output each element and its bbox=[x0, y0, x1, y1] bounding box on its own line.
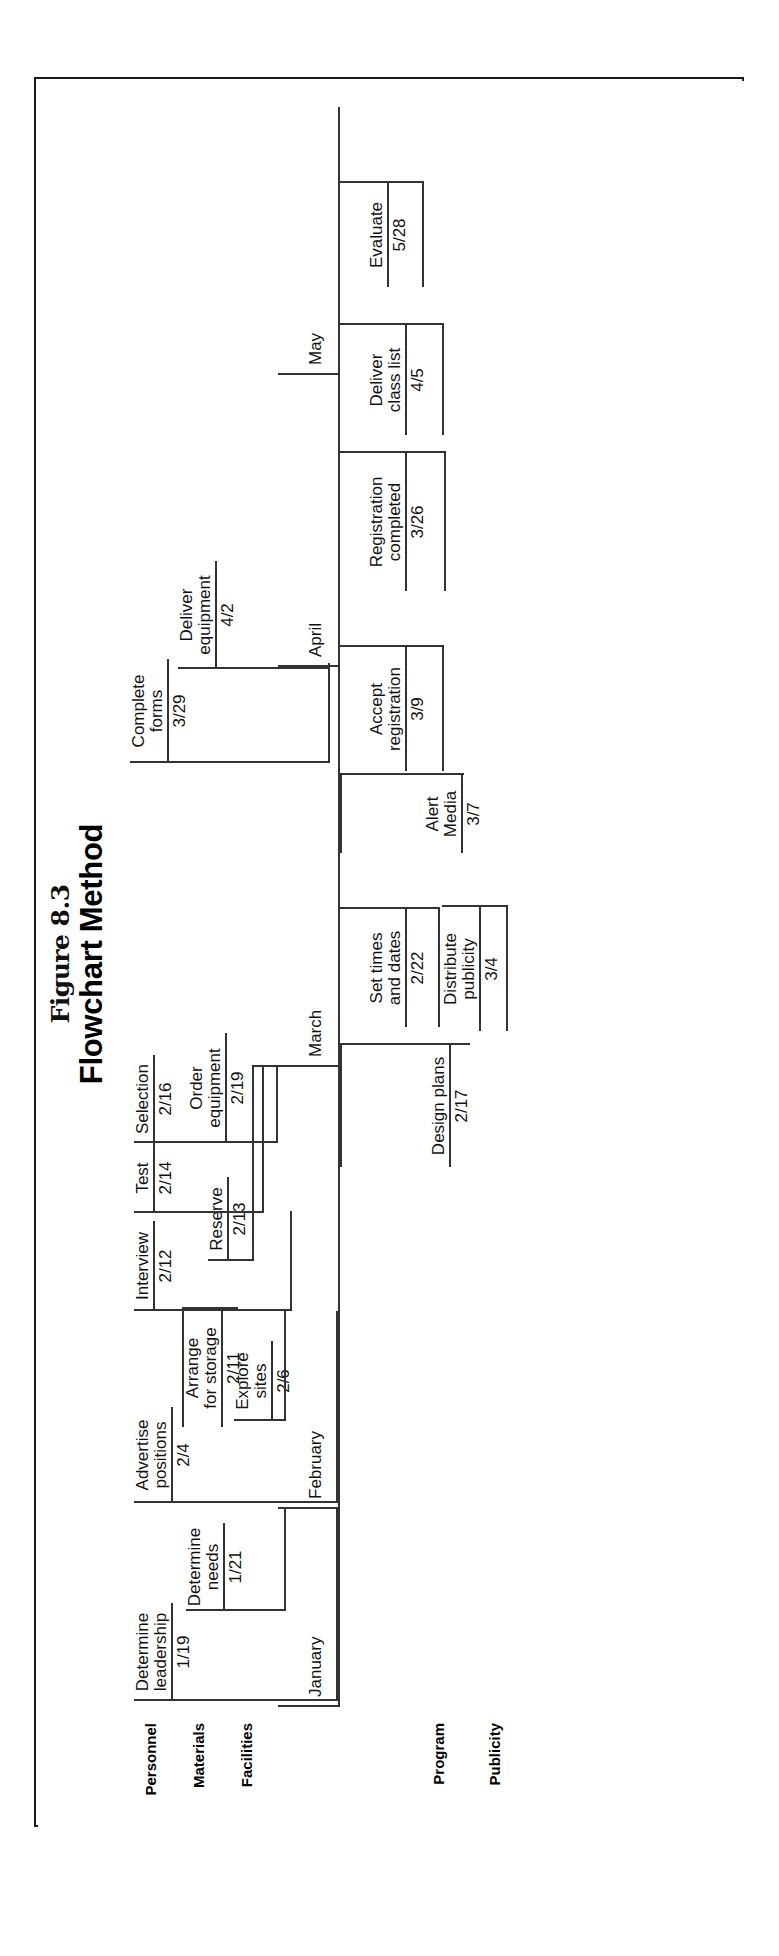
task-date: 2/16 bbox=[155, 1055, 175, 1143]
task-registration-completed: Registration completed 3/26 bbox=[368, 453, 427, 591]
month-tick-may bbox=[278, 373, 340, 375]
leg-test-base bbox=[262, 1065, 264, 1213]
task-label-line1: Set times bbox=[368, 909, 386, 1027]
leg-complete-forms-left bbox=[130, 761, 330, 763]
month-label-april: April bbox=[306, 623, 326, 657]
task-label-line1: Registration bbox=[368, 453, 386, 591]
leg-deliver-equipment-base bbox=[328, 665, 330, 669]
task-label-line1: Complete bbox=[130, 659, 148, 763]
task-evaluate: Evaluate 5/28 bbox=[368, 183, 409, 287]
month-tick-january bbox=[278, 1705, 340, 1707]
month-label-january: January bbox=[306, 1637, 326, 1697]
task-test: Test 2/14 bbox=[134, 1143, 175, 1213]
task-label-line2: class list bbox=[386, 325, 404, 435]
month-label-may: May bbox=[306, 333, 326, 365]
leg-reserve-base bbox=[252, 1065, 254, 1261]
task-date: 4/2 bbox=[217, 561, 237, 669]
leg-deliver-class-list-right bbox=[340, 323, 444, 325]
task-date: 1/21 bbox=[225, 1523, 245, 1611]
leg-interview-left bbox=[134, 1309, 292, 1311]
task-label-line1: Alert bbox=[424, 775, 442, 853]
leg-deliver-class-list-base bbox=[442, 323, 444, 435]
row-label-materials: Materials bbox=[190, 1723, 207, 1809]
leg-determine-needs-left bbox=[186, 1609, 286, 1611]
task-label-line2: completed bbox=[386, 453, 404, 591]
task-label-line1: Evaluate bbox=[368, 183, 386, 287]
figure-frame: Figure 8.3 Flowchart Method Personnel Ma… bbox=[34, 77, 744, 1827]
task-label-line1: Reserve bbox=[208, 1177, 226, 1261]
row-label-program: Program bbox=[430, 1723, 447, 1809]
task-reserve: Reserve 2/13 bbox=[208, 1177, 249, 1261]
row-label-publicity: Publicity bbox=[486, 1723, 503, 1809]
task-determine-leadership: Determine leadership 1/19 bbox=[134, 1603, 193, 1701]
task-label-line2: publicity bbox=[460, 907, 478, 1031]
leg-advertise-positions-base bbox=[336, 1311, 338, 1503]
task-label-line2: equipment bbox=[206, 1033, 224, 1143]
leg-distribute-publicity-right bbox=[442, 905, 508, 907]
month-label-march: March bbox=[306, 1010, 326, 1057]
leg-selection-left bbox=[134, 1141, 196, 1143]
leg-set-times-base bbox=[438, 907, 440, 1027]
task-label-line2: equipment bbox=[196, 561, 214, 669]
task-selection: Selection 2/16 bbox=[134, 1055, 175, 1143]
task-date: 2/12 bbox=[155, 1221, 175, 1311]
leg-set-times-right bbox=[340, 907, 440, 909]
task-label-line2: forms bbox=[148, 659, 166, 763]
task-label-line2: and dates bbox=[386, 909, 404, 1027]
leg-order-equipment-left bbox=[188, 1141, 278, 1143]
leg-accept-registration-base bbox=[442, 645, 444, 771]
task-determine-needs: Determine needs 1/21 bbox=[186, 1523, 245, 1611]
task-distribute-publicity: Distribute publicity 3/4 bbox=[442, 907, 501, 1031]
task-label-line2: leadership bbox=[152, 1603, 170, 1701]
task-label-line1: Deliver bbox=[178, 561, 196, 669]
leg-order-equipment-base bbox=[276, 1065, 278, 1143]
task-label-line2: Media bbox=[442, 775, 460, 853]
riser-february-to-march bbox=[252, 1065, 340, 1067]
task-arrange-for-storage: Arrange for storage 2/11 bbox=[184, 1309, 243, 1427]
task-label-line2: needs bbox=[204, 1523, 222, 1611]
leg-deliver-equipment-left bbox=[178, 667, 330, 669]
task-interview: Interview 2/12 bbox=[134, 1221, 175, 1311]
task-set-times-and-dates: Set times and dates 2/22 bbox=[368, 909, 427, 1027]
leg-alert-media-right bbox=[340, 773, 464, 775]
figure-number: Figure 8.3 bbox=[46, 81, 75, 1827]
leg-registration-completed-right bbox=[340, 451, 446, 453]
figure-rotation-wrapper: Figure 8.3 Flowchart Method Personnel Ma… bbox=[36, 79, 746, 1829]
task-date: 2/13 bbox=[229, 1177, 249, 1261]
leg-determine-needs-base bbox=[284, 1507, 286, 1611]
task-date: 1/19 bbox=[173, 1603, 193, 1701]
task-label-line1: Order bbox=[188, 1033, 206, 1143]
row-label-personnel: Personnel bbox=[142, 1723, 159, 1809]
month-tick-february bbox=[278, 1507, 340, 1509]
task-deliver-equipment: Deliver equipment 4/2 bbox=[178, 561, 237, 669]
task-date: 2/14 bbox=[155, 1143, 175, 1213]
task-label-line1: Test bbox=[134, 1143, 152, 1213]
leg-registration-completed-base bbox=[444, 451, 446, 591]
task-label-line1: Accept bbox=[368, 647, 386, 771]
task-date: 2/11 bbox=[223, 1309, 243, 1427]
task-label-line1: Advertise bbox=[134, 1407, 152, 1503]
task-label-line1: Interview bbox=[134, 1221, 152, 1311]
task-date: 2/6 bbox=[273, 1341, 293, 1421]
figure-title: Flowchart Method bbox=[74, 81, 110, 1827]
task-complete-forms: Complete forms 3/29 bbox=[130, 659, 189, 763]
task-label-line2: for storage bbox=[202, 1309, 220, 1427]
task-label-line1: Deliver bbox=[368, 325, 386, 435]
task-label-line1: Selection bbox=[134, 1055, 152, 1143]
leg-accept-registration-right bbox=[340, 645, 444, 647]
leg-evaluate-base bbox=[422, 181, 424, 287]
task-label-line2: positions bbox=[152, 1407, 170, 1503]
task-deliver-class-list: Deliver class list 4/5 bbox=[368, 325, 427, 435]
task-order-equipment: Order equipment 2/19 bbox=[188, 1033, 247, 1143]
task-date: 2/17 bbox=[451, 1045, 471, 1167]
leg-evaluate-right bbox=[340, 181, 424, 183]
leg-interview-base bbox=[290, 1211, 292, 1311]
flowchart-canvas: Figure 8.3 Flowchart Method Personnel Ma… bbox=[38, 81, 744, 1827]
leg-test-left bbox=[134, 1211, 264, 1213]
task-design-plans: Design plans 2/17 bbox=[430, 1045, 471, 1167]
task-alert-media: Alert Media 3/7 bbox=[424, 775, 483, 853]
task-label-line2: sites bbox=[252, 1341, 270, 1421]
task-date: 4/5 bbox=[407, 325, 427, 435]
task-date: 3/4 bbox=[481, 907, 501, 1031]
leg-arrange-for-storage-top bbox=[182, 1307, 184, 1427]
